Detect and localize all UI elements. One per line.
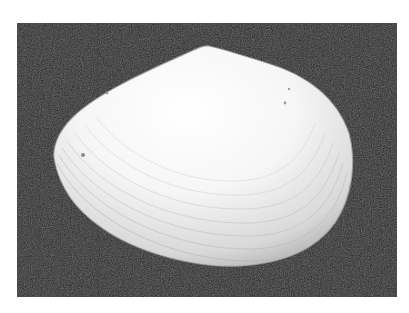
clam-shell-photo — [17, 23, 397, 297]
photo-frame — [17, 23, 397, 297]
shell-spot — [106, 92, 109, 95]
shell-spot — [284, 102, 287, 105]
shell-spot — [288, 88, 290, 90]
shell-spot — [81, 153, 85, 157]
